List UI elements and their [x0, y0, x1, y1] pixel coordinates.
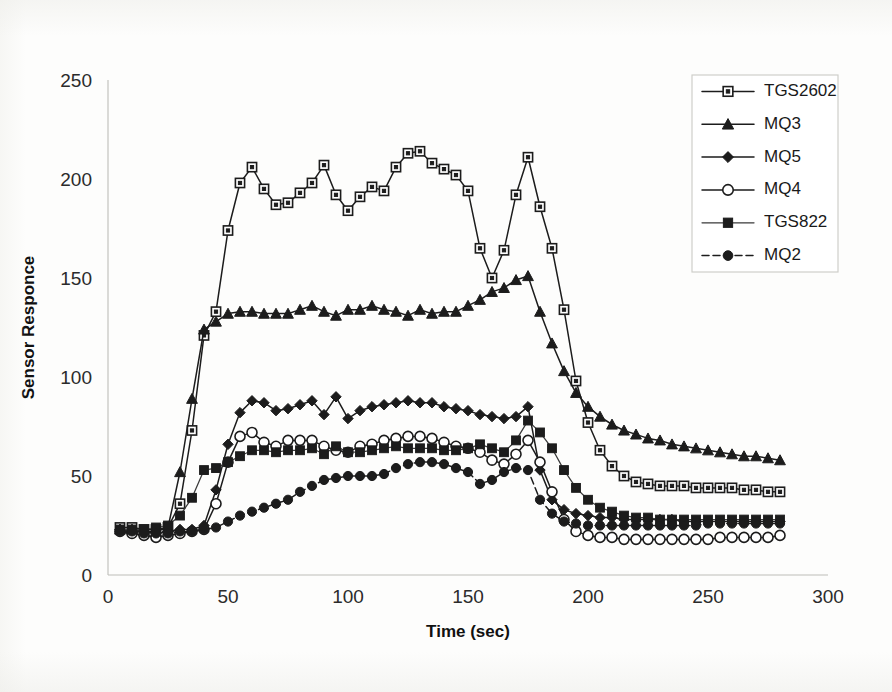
- marker-open-circle: [547, 487, 557, 497]
- marker-open-square-core: [726, 90, 729, 93]
- marker-open-circle: [643, 534, 653, 544]
- marker-filled-circle: [667, 521, 676, 530]
- marker-open-circle: [247, 427, 257, 437]
- marker-filled-square: [452, 446, 461, 455]
- marker-filled-square: [236, 452, 245, 461]
- marker-open-square-core: [190, 429, 193, 432]
- marker-open-circle: [715, 532, 725, 542]
- marker-filled-square: [272, 448, 281, 457]
- marker-open-circle: [427, 433, 437, 443]
- marker-filled-circle: [475, 479, 484, 488]
- marker-open-square-core: [694, 486, 697, 489]
- marker-filled-circle: [175, 527, 184, 536]
- marker-filled-square: [440, 446, 449, 455]
- legend-box: [692, 75, 838, 272]
- y-tick-50: 50: [71, 466, 92, 487]
- marker-filled-circle: [607, 521, 616, 530]
- legend-label-MQ3: MQ3: [764, 114, 801, 133]
- marker-open-circle: [211, 499, 221, 509]
- marker-filled-triangle: [319, 306, 330, 316]
- marker-open-circle: [679, 534, 689, 544]
- legend-label-MQ5: MQ5: [764, 147, 801, 166]
- marker-filled-square: [416, 444, 425, 453]
- marker-filled-circle: [355, 471, 364, 480]
- marker-filled-square: [344, 448, 353, 457]
- marker-filled-square: [548, 444, 557, 453]
- marker-filled-circle: [679, 521, 688, 530]
- marker-open-square-core: [610, 465, 613, 468]
- marker-open-circle: [583, 530, 593, 540]
- marker-filled-triangle: [331, 310, 342, 320]
- marker-filled-square: [620, 511, 629, 520]
- marker-filled-circle: [187, 527, 196, 536]
- marker-filled-triangle: [535, 306, 546, 316]
- marker-open-circle: [739, 532, 749, 542]
- marker-filled-square: [332, 442, 341, 451]
- marker-filled-circle: [691, 521, 700, 530]
- marker-filled-square: [404, 444, 413, 453]
- x-axis-tick-labels: 050100150200250300: [103, 586, 844, 607]
- marker-filled-circle: [739, 519, 748, 528]
- y-tick-200: 200: [60, 169, 92, 190]
- marker-filled-circle: [415, 458, 424, 467]
- marker-filled-triangle: [415, 304, 426, 314]
- marker-filled-diamond: [463, 405, 473, 415]
- marker-open-square-core: [418, 150, 421, 153]
- marker-open-square-core: [298, 191, 301, 194]
- series-line-TGS822: [120, 421, 780, 530]
- marker-open-square-core: [382, 189, 385, 192]
- marker-filled-circle: [427, 458, 436, 467]
- marker-open-circle: [703, 534, 713, 544]
- marker-open-square-core: [490, 276, 493, 279]
- marker-filled-circle: [223, 517, 232, 526]
- x-tick-100: 100: [332, 586, 364, 607]
- marker-filled-square: [596, 503, 605, 512]
- marker-filled-diamond: [439, 402, 449, 412]
- marker-open-circle: [775, 530, 785, 540]
- marker-filled-circle: [511, 463, 520, 472]
- marker-filled-triangle: [547, 338, 558, 348]
- marker-filled-diamond: [331, 392, 341, 402]
- marker-filled-diamond: [223, 439, 233, 449]
- marker-open-square-core: [394, 166, 397, 169]
- marker-filled-triangle: [403, 310, 414, 320]
- marker-open-square-core: [682, 484, 685, 487]
- marker-open-square-core: [358, 195, 361, 198]
- legend-label-TGS822: TGS822: [764, 212, 827, 231]
- marker-open-square-core: [334, 193, 337, 196]
- marker-filled-circle: [391, 463, 400, 472]
- marker-filled-circle: [403, 460, 412, 469]
- marker-filled-triangle: [379, 304, 390, 314]
- marker-open-circle: [235, 431, 245, 441]
- marker-filled-diamond: [259, 398, 269, 408]
- marker-filled-triangle: [607, 419, 618, 429]
- marker-open-square-core: [766, 490, 769, 493]
- marker-filled-circle: [259, 503, 268, 512]
- marker-filled-triangle: [463, 300, 474, 310]
- marker-open-circle: [535, 457, 545, 467]
- marker-filled-square: [392, 442, 401, 451]
- marker-filled-diamond: [271, 405, 281, 415]
- marker-filled-circle: [271, 499, 280, 508]
- marker-open-square-core: [706, 486, 709, 489]
- marker-filled-square: [428, 444, 437, 453]
- marker-filled-circle: [643, 521, 652, 530]
- legend-label-TGS2602: TGS2602: [764, 81, 837, 100]
- marker-filled-triangle: [631, 429, 642, 439]
- marker-open-circle: [283, 435, 293, 445]
- y-axis-tick-labels: 050100150200250: [60, 70, 92, 586]
- marker-filled-diamond: [583, 510, 593, 520]
- marker-filled-circle: [127, 527, 136, 536]
- marker-filled-square: [356, 448, 365, 457]
- x-tick-50: 50: [217, 586, 238, 607]
- marker-filled-diamond: [343, 413, 353, 423]
- marker-open-square-core: [658, 484, 661, 487]
- marker-open-circle: [607, 532, 617, 542]
- marker-filled-square: [500, 448, 509, 457]
- marker-filled-square: [212, 464, 221, 473]
- marker-filled-square: [572, 483, 581, 492]
- marker-filled-triangle: [511, 275, 522, 285]
- marker-filled-triangle: [523, 271, 534, 281]
- series-markers-TGS2602: [115, 147, 784, 534]
- marker-filled-circle: [487, 475, 496, 484]
